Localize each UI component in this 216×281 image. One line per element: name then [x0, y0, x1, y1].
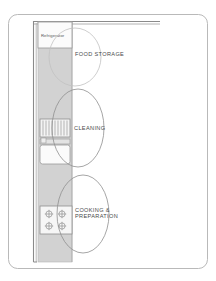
refrigerator-label: Refrigerator	[41, 33, 65, 38]
floor-plan-canvas: Refrigerator	[0, 0, 216, 281]
kitchen-floor-plan-diagram: Refrigerator	[0, 0, 216, 281]
zone-label-cleaning: CLEANING	[74, 125, 105, 131]
zone-label-food-storage: FOOD STORAGE	[75, 51, 124, 57]
range-cooktop	[40, 206, 72, 234]
sink	[40, 138, 70, 164]
zone-label-cooking-line-2: PREPARATION	[75, 213, 118, 219]
refrigerator: Refrigerator	[38, 22, 72, 48]
dishwasher	[40, 119, 70, 137]
